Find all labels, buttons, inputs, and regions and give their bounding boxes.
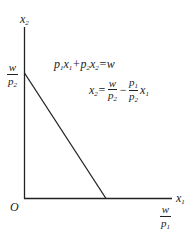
y-axis-label: x2: [20, 13, 29, 27]
origin-label: O: [10, 201, 19, 213]
budget-diagram: [0, 0, 191, 233]
y-intercept-label: w p2: [7, 62, 18, 89]
budget-equation: p1x1+p2x2=w: [54, 57, 115, 72]
slope-intercept-equation: x2= wp2 − p1p2 x1: [89, 77, 149, 104]
x-intercept-label: w p1: [160, 204, 171, 231]
x-axis-label: x1: [176, 192, 185, 206]
